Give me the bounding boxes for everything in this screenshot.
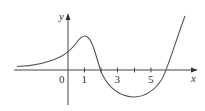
y-axis-label: y bbox=[58, 10, 64, 22]
function-graph: y x 0 1 3 5 bbox=[0, 0, 205, 111]
tick-label-1: 1 bbox=[82, 73, 88, 85]
tick-label-5: 5 bbox=[148, 73, 154, 85]
function-curve bbox=[17, 16, 185, 97]
tick-label-3: 3 bbox=[115, 73, 121, 85]
origin-label: 0 bbox=[59, 73, 65, 85]
y-axis-arrow-icon bbox=[66, 13, 71, 20]
x-axis-label: x bbox=[190, 72, 196, 84]
